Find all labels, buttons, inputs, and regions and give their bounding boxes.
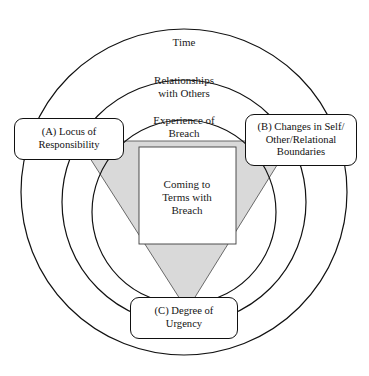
callout-box-c-degree-of-urgency[interactable]: (C) Degree of Urgency xyxy=(130,297,238,339)
callout-box-a-locus-of-responsibility[interactable]: (A) Locus of Responsibility xyxy=(14,118,124,160)
diagram-canvas: Time Relationships with Others Experienc… xyxy=(0,0,369,376)
callout-box-b-changes-in-self-other-relational-boundaries[interactable]: (B) Changes in Self/ Other/Relational Bo… xyxy=(245,114,357,166)
core-rectangle xyxy=(139,147,236,244)
